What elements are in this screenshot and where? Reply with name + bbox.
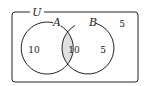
- intersection-count: 10: [68, 45, 80, 55]
- set-b-label: B: [88, 16, 97, 29]
- venn-diagram: U A B 5 10 10 5: [0, 0, 144, 86]
- outside-count: 5: [119, 19, 125, 29]
- universe-label: U: [32, 6, 42, 19]
- set-a-label: A: [52, 16, 61, 29]
- a-only-count: 10: [28, 45, 40, 55]
- b-only-count: 5: [100, 45, 106, 55]
